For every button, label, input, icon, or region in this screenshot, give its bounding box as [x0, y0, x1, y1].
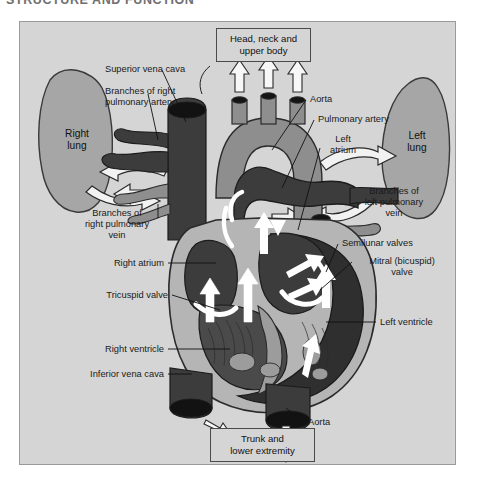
- la-line2: atrium: [320, 145, 366, 156]
- mv-line1: Mitral (bicuspid): [354, 256, 450, 267]
- heart-diagram-figure: Head, neck and upper body Trunk and lowe…: [19, 21, 456, 465]
- box-head-neck-line1: Head, neck and: [224, 33, 303, 45]
- brpv-line2: right pulmonary: [74, 219, 160, 230]
- label-aorta-top: Aorta: [310, 94, 332, 105]
- running-header-text: STRUCTURE AND FUNCTION: [6, 0, 194, 7]
- label-right-ventricle: Right ventricle: [76, 344, 164, 355]
- brpv-line3: vein: [74, 230, 160, 241]
- blpv-line3: vein: [350, 208, 438, 219]
- blpv-line2: left pulmonary: [350, 197, 438, 208]
- left-lung-line1: Left: [386, 130, 448, 142]
- label-branches-left-pulmonary-vein: Branches of left pulmonary vein: [350, 186, 438, 219]
- brpa-line2: pulmonary artery: [105, 97, 175, 108]
- brpv-line1: Branches of: [74, 208, 160, 219]
- mv-line2: valve: [354, 267, 450, 278]
- label-branches-right-pulmonary-vein: Branches of right pulmonary vein: [74, 208, 160, 241]
- label-right-atrium: Right atrium: [78, 258, 164, 269]
- box-trunk-line1: Trunk and: [218, 433, 307, 445]
- label-superior-vena-cava: Superior vena cava: [105, 64, 185, 75]
- superior-vena-cava-vessel: [168, 98, 206, 240]
- left-lung-line2: lung: [386, 142, 448, 154]
- right-lung-line2: lung: [46, 140, 108, 152]
- left-lung-label: Left lung: [386, 130, 448, 154]
- label-semilunar-valves: Semilunar valves: [342, 238, 413, 249]
- label-branches-right-pulmonary-artery: Branches of right pulmonary artery: [105, 86, 175, 108]
- leader-head-neck-box: [200, 66, 210, 94]
- label-inferior-vena-cava: Inferior vena cava: [64, 369, 164, 380]
- label-left-atrium: Left atrium: [320, 134, 366, 156]
- label-aorta-bottom: Aorta: [308, 417, 330, 428]
- la-line1: Left: [320, 134, 366, 145]
- flow-arrow-up-3: [288, 60, 307, 92]
- right-pulmonary-branch-upper: [114, 129, 168, 148]
- label-left-ventricle: Left ventricle: [380, 317, 433, 328]
- box-trunk-lower-extremity: Trunk and lower extremity: [210, 428, 315, 462]
- right-lung-label: Right lung: [46, 128, 108, 152]
- figure-page: STRUCTURE AND FUNCTION: [0, 0, 497, 494]
- label-pulmonary-artery: Pulmonary artery: [318, 114, 389, 125]
- left-common-carotid: [261, 96, 276, 124]
- blpv-line1: Branches of: [350, 186, 438, 197]
- box-head-neck-upper-body: Head, neck and upper body: [216, 28, 311, 62]
- ivc-lumen: [170, 399, 212, 417]
- brpa-line1: Branches of right: [105, 86, 175, 97]
- label-tricuspid-valve: Tricuspid valve: [76, 290, 168, 301]
- flow-arrow-up-1: [230, 60, 249, 92]
- box-head-neck-line2: upper body: [224, 45, 303, 57]
- box-trunk-line2: lower extremity: [218, 445, 307, 457]
- label-mitral-valve: Mitral (bicuspid) valve: [354, 256, 450, 278]
- running-header: STRUCTURE AND FUNCTION: [0, 0, 497, 12]
- right-lung-line1: Right: [46, 128, 108, 140]
